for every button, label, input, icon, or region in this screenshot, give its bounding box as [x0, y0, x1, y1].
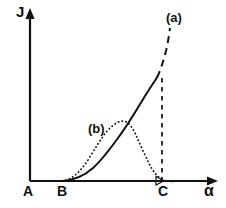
plot-svg [0, 0, 226, 208]
curve-a-dashed [157, 28, 170, 78]
x-tick-label-c: C [158, 184, 168, 198]
y-axis-arrowhead [25, 8, 34, 19]
figure-container: J α A B C (a) (b) [0, 0, 226, 208]
curve-label-a: (a) [166, 11, 182, 24]
x-tick-label-b: B [57, 184, 67, 198]
x-tick-label-a: A [23, 184, 33, 198]
curve-b-dotted [62, 121, 176, 182]
y-axis-title: J [16, 4, 24, 19]
x-axis-title: α [204, 183, 214, 199]
curve-label-b: (b) [88, 122, 105, 135]
